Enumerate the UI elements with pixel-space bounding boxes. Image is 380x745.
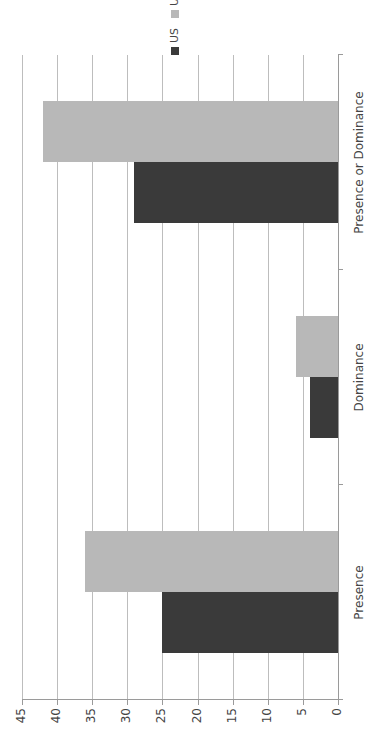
tick-mark	[162, 700, 163, 705]
tick-mark	[198, 700, 199, 705]
axis-tick-label: 5	[295, 708, 309, 738]
legend-item-us: US	[168, 28, 181, 55]
category-label: Presence	[352, 513, 366, 673]
axis-tick-label: 20	[190, 708, 204, 738]
axis-tick-label: 30	[119, 708, 133, 738]
tick-mark	[233, 700, 234, 705]
category-tick	[338, 484, 343, 485]
axis-tick-label: 35	[84, 708, 98, 738]
gridline	[22, 55, 23, 700]
axis-tick-label: 25	[154, 708, 168, 738]
axis-tick-label: 15	[225, 708, 239, 738]
axis-tick-label: 0	[330, 708, 344, 738]
category-label: Dominance	[352, 298, 366, 458]
value-axis-line	[22, 699, 338, 700]
bar-us-presence	[162, 593, 338, 654]
axis-tick-label: 10	[260, 708, 274, 738]
bar-us-presence-or-dominance	[134, 163, 338, 224]
category-axis-line	[338, 55, 339, 700]
bar-uk-dominance	[296, 317, 338, 378]
legend: US UK	[168, 0, 181, 55]
category-tick	[338, 699, 343, 700]
bar-us-dominance	[310, 378, 338, 439]
legend-item-uk: UK	[168, 0, 181, 18]
category-label: Presence or Dominance	[352, 83, 366, 243]
legend-label-uk: UK	[168, 0, 181, 6]
axis-tick-label: 45	[14, 708, 28, 738]
tick-mark	[57, 700, 58, 705]
tick-mark	[92, 700, 93, 705]
bar-chart: US UK 051015202530354045PresenceDominanc…	[0, 0, 380, 745]
tick-mark	[268, 700, 269, 705]
legend-swatch-us	[171, 47, 179, 55]
tick-mark	[127, 700, 128, 705]
category-tick	[338, 54, 343, 55]
legend-swatch-uk	[171, 10, 179, 18]
tick-mark	[303, 700, 304, 705]
bar-uk-presence-or-dominance	[43, 102, 338, 163]
tick-mark	[338, 700, 339, 705]
bar-uk-presence	[85, 532, 338, 593]
tick-mark	[22, 700, 23, 705]
axis-tick-label: 40	[49, 708, 63, 738]
category-tick	[338, 269, 343, 270]
legend-label-us: US	[168, 28, 181, 43]
